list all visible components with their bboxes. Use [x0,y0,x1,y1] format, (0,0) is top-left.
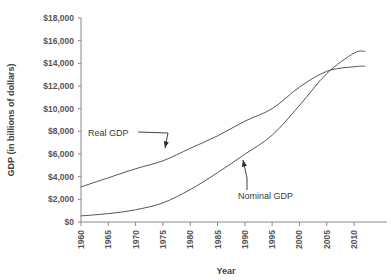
x-tick-label: 1965 [103,230,113,249]
y-tick-label: $14,000 [43,58,74,68]
y-axis-title-group: GDP (in billions of dollars) [6,64,16,177]
annotation-leader-real-gdp [138,132,168,148]
y-tick-label: $8,000 [48,126,74,136]
y-tick-label: $12,000 [43,81,74,91]
annotation-label-nominal-gdp: Nominal GDP [238,191,293,201]
x-axis-ticks: 1960196519701975198019851990199520002005… [76,222,359,249]
x-tick-label: 1960 [76,230,86,249]
chart-canvas: GDP (in billions of dollars) $0$2,000$4,… [0,0,391,280]
x-axis-title: Year [216,266,236,276]
annotation-arrowhead-real-gdp [164,141,169,148]
y-tick-label: $2,000 [48,194,74,204]
x-tick-label: 2010 [349,230,359,249]
x-tick-label: 1990 [240,230,250,249]
x-tick-label: 2000 [294,230,304,249]
y-axis-ticks: $0$2,000$4,000$6,000$8,000$10,000$12,000… [43,13,81,227]
x-tick-label: 1970 [131,230,141,249]
x-tick-label: 1980 [185,230,195,249]
y-tick-label: $10,000 [43,104,74,114]
y-tick-label: $0 [65,217,75,227]
y-tick-label: $6,000 [48,149,74,159]
x-tick-label: 1985 [213,230,223,249]
series-annotations: Real GDPNominal GDP [88,128,293,201]
y-tick-label: $18,000 [43,13,74,23]
y-tick-label: $4,000 [48,172,74,182]
y-tick-label: $16,000 [43,36,74,46]
annotation-label-real-gdp: Real GDP [88,128,129,138]
annotation-arrowhead-nominal-gdp [242,160,247,167]
y-axis-title: GDP (in billions of dollars) [6,64,16,177]
x-tick-label: 2005 [322,230,332,249]
x-tick-label: 1995 [267,230,277,249]
x-tick-label: 1975 [158,230,168,249]
gdp-line-chart: GDP (in billions of dollars) $0$2,000$4,… [0,0,391,280]
